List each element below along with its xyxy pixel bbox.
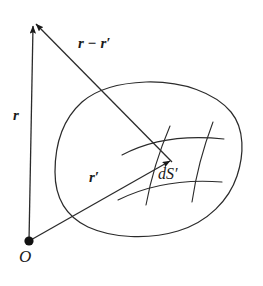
label-origin-O: O [19, 248, 31, 265]
label-vector-r-prime: r′ [89, 170, 99, 185]
surface-patch-grid-line-v2 [118, 181, 222, 200]
diagram-canvas [0, 0, 263, 286]
surface-patch-grid-line-u2 [192, 122, 213, 202]
vector-diagram-figure: r r − r′ r′ dS′ O [0, 0, 263, 286]
label-vector-r-minus-r-prime: r − r′ [78, 36, 110, 51]
vector-r-line [29, 26, 33, 241]
label-surface-element-ds-prime: dS′ [158, 166, 178, 182]
vector-r-prime-line [29, 161, 170, 241]
closed-surface-outline [55, 82, 242, 237]
surface-patch-grid-line-v1 [122, 138, 224, 155]
origin-point [24, 236, 33, 245]
label-vector-r: r [13, 108, 19, 123]
